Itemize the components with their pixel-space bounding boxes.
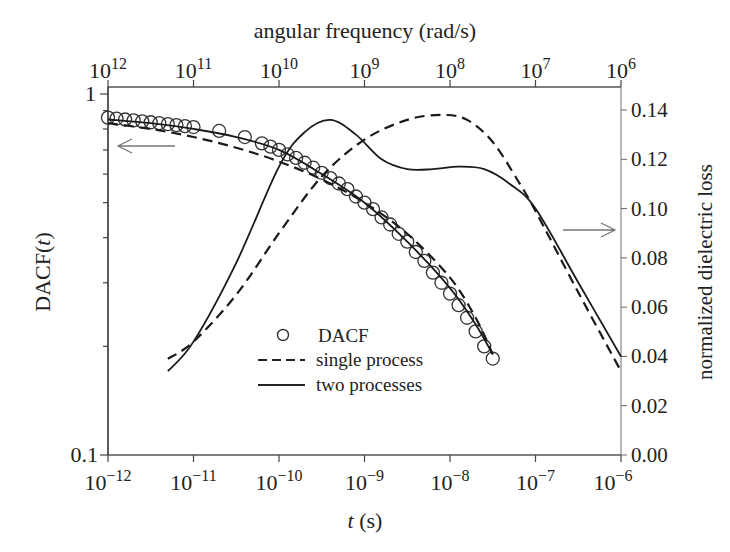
left-axis-ticks: 10.1 [71, 81, 109, 467]
legend-label-dacf: DACF [318, 325, 369, 346]
bottom-tick-label: 10−10 [255, 467, 302, 495]
legend-circle-marker [278, 330, 289, 341]
dacf-data-point [418, 254, 431, 267]
top-tick-label: 109 [350, 55, 380, 83]
dacf-data-point [187, 121, 200, 134]
top-tick-label: 106 [606, 55, 636, 83]
single-process-dielectric-loss-curve [168, 115, 621, 371]
right-tick-label: 0.10 [631, 197, 668, 221]
bottom-tick-label: 10−9 [345, 467, 384, 495]
top-tick-label: 108 [435, 55, 465, 83]
top-tick-label: 1011 [175, 55, 212, 83]
right-tick-label: 0.14 [631, 98, 668, 122]
right-axis-title: normalized dielectric loss [693, 164, 717, 380]
two-processes-dacf-fit-curve [108, 119, 493, 354]
top-axis-ticks: 101210111010109108107106 [89, 55, 636, 87]
right-tick-label: 0.06 [631, 295, 668, 319]
left-arrow-icon [118, 139, 175, 153]
top-tick-label: 1010 [260, 55, 298, 83]
top-axis-title: angular frequency (rad/s) [254, 18, 476, 43]
legend-label-single: single process [316, 349, 423, 370]
top-tick-label: 1012 [89, 55, 127, 83]
dacf-data-point [213, 124, 226, 137]
right-tick-label: 0.08 [631, 246, 668, 270]
dacf-dielectric-loss-chart: 101210111010109108107106 10−1210−1110−10… [0, 0, 730, 552]
legend: DACF single process two processes [258, 325, 423, 395]
top-tick-label: 107 [521, 55, 551, 83]
right-tick-label: 0.04 [631, 344, 668, 368]
bottom-tick-label: 10−12 [84, 467, 131, 495]
x-axis-title: t (s) [348, 508, 383, 533]
right-tick-label: 0.02 [631, 394, 668, 418]
legend-label-two: two processes [316, 374, 422, 395]
left-tick-label: 0.1 [71, 442, 99, 467]
two-processes-dielectric-loss-curve [168, 120, 621, 371]
right-axis-ticks: 0.000.020.040.060.080.100.120.14 [621, 98, 668, 467]
bottom-tick-label: 10−11 [170, 467, 216, 495]
bottom-tick-label: 10−7 [516, 467, 555, 495]
x-axis-title-unit: (s) [354, 508, 383, 533]
right-arrow-icon [563, 223, 615, 237]
bottom-tick-label: 10−8 [430, 467, 469, 495]
left-axis-title: DACF(t) [30, 232, 55, 311]
right-tick-label: 0.12 [631, 147, 668, 171]
bottom-axis-ticks: 10−1210−1110−1010−910−810−710−6 [84, 455, 632, 495]
right-tick-label: 0.00 [631, 443, 668, 467]
left-tick-label: 1 [85, 81, 96, 106]
bottom-tick-label: 10−6 [593, 467, 632, 495]
dacf-data-point [238, 131, 251, 144]
